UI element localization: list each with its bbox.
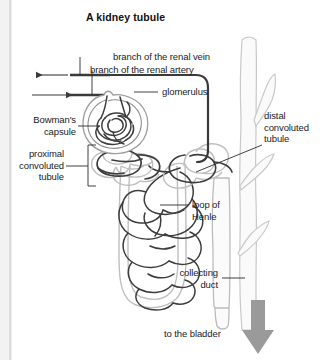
page-title: A kidney tubule [86,11,165,23]
renal-vessel-trunk [238,37,275,330]
label-glomerulus: glomerulus [162,86,207,98]
proximal-tubule-capillary [97,150,160,179]
label-collecting-duct: collecting duct [150,267,218,290]
label-renal-vein: branch of the renal vein [0,51,210,63]
label-distal-convoluted-tubule: distal convoluted tubule [264,110,309,145]
label-loop-of-henle: loop of Henle [192,199,220,222]
label-renal-artery: branch of the renal artery [90,64,194,76]
label-to-the-bladder: to the bladder [164,328,221,340]
label-bowmans-capsule: Bowman's capsule [0,114,76,137]
kidney-tubule-diagram: A kidney tubule branch of the renal vein… [0,0,325,360]
label-proximal-convoluted-tubule: proximal convoluted tubule [0,148,64,183]
flow-arrow-group [32,75,68,95]
renal-vessel-stubs [70,75,110,95]
